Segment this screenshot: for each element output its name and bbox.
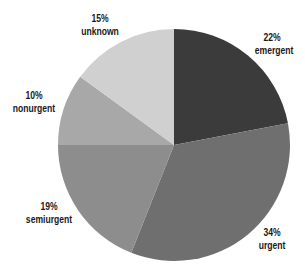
label-emergent-pct: 22% — [255, 31, 289, 44]
label-semiurgent-name: semiurgent — [23, 213, 74, 226]
label-semiurgent: 19% semiurgent — [23, 200, 74, 226]
label-urgent-pct: 34% — [255, 226, 289, 239]
label-nonurgent-pct: 10% — [12, 89, 56, 102]
label-emergent-name: emergent — [255, 44, 289, 57]
label-nonurgent: 10% nonurgent — [12, 89, 56, 115]
label-unknown-pct: 15% — [80, 12, 121, 25]
label-unknown: 15% unknown — [80, 12, 121, 38]
label-nonurgent-name: nonurgent — [12, 102, 56, 115]
label-semiurgent-pct: 19% — [23, 200, 74, 213]
label-urgent: 34% urgent — [255, 226, 289, 252]
label-unknown-name: unknown — [80, 25, 121, 38]
label-urgent-name: urgent — [255, 239, 289, 252]
label-emergent: 22% emergent — [255, 31, 289, 57]
